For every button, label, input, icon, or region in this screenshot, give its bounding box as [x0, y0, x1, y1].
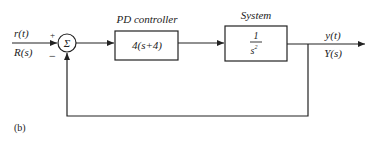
input-time-label: r(t): [14, 27, 29, 40]
sigma-symbol: Σ: [63, 37, 71, 49]
summing-junction: Σ: [58, 34, 76, 52]
plant-title: System: [241, 9, 272, 21]
output-time-label: y(t): [324, 29, 341, 42]
block-diagram: r(t) R(s) Σ + − PD controller 4(s+4) Sys…: [0, 0, 377, 141]
controller-transfer-function: 4(s+4): [132, 39, 162, 52]
output-laplace-label: Y(s): [324, 47, 342, 60]
input-laplace-label: R(s): [13, 46, 33, 59]
plus-sign: +: [50, 30, 55, 40]
figure-caption: (b): [14, 122, 26, 134]
controller-title: PD controller: [116, 13, 179, 25]
minus-sign: −: [49, 49, 56, 63]
plant-numerator: 1: [254, 30, 259, 41]
